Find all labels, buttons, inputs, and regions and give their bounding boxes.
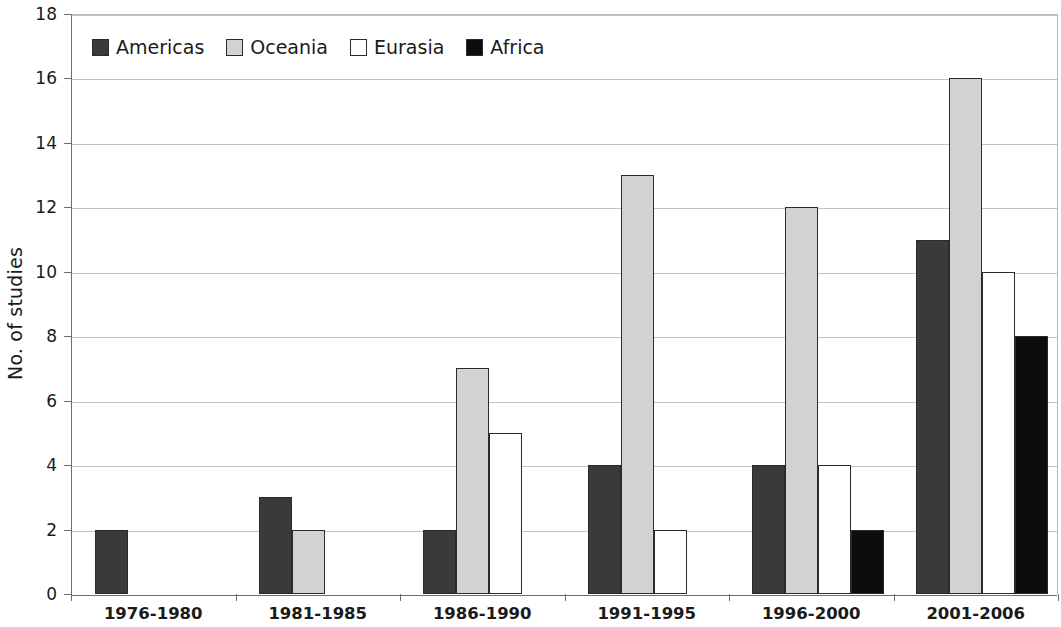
bar-americas-1996-2000 [752, 465, 785, 594]
bar-oceania-1981-1985 [292, 530, 325, 594]
legend-label: Eurasia [374, 36, 444, 58]
bar-americas-1981-1985 [259, 497, 292, 594]
bar-americas-1991-1995 [588, 465, 621, 594]
bar-group-1981-1985 [236, 15, 400, 594]
y-axis-tick-mark [64, 78, 71, 79]
bar-eurasia-1996-2000 [818, 465, 851, 594]
legend-label: Americas [116, 36, 204, 58]
x-axis-tick-label-1996-2000: 1996-2000 [729, 604, 894, 627]
y-axis-tick-mark [64, 594, 71, 595]
bar-africa-2001-2006 [1015, 336, 1048, 594]
x-axis-tick-mark [565, 594, 566, 601]
x-axis-tick-mark [894, 594, 895, 601]
x-axis-tick-label-2001-2006: 2001-2006 [894, 604, 1059, 627]
x-axis-tick-label-1976-1980: 1976-1980 [71, 604, 236, 627]
y-axis-tick-label: 8 [46, 326, 57, 346]
bar-oceania-1996-2000 [785, 207, 818, 594]
bar-group-2001-2006 [893, 15, 1057, 594]
bar-group-1991-1995 [565, 15, 729, 594]
y-axis-tick-mark [64, 14, 71, 15]
y-axis-tick-label: 18 [35, 4, 57, 24]
y-axis-tick-mark [64, 272, 71, 273]
bar-groups [72, 15, 1057, 594]
x-axis-tick-labels: 1976-19801981-19851986-19901991-19951996… [71, 604, 1058, 627]
legend-item-africa: Africa [466, 36, 544, 58]
bar-africa-1996-2000 [851, 530, 884, 594]
legend-item-americas: Americas [92, 36, 204, 58]
bar-chart-figure: No. of studies 181614121086420 1976-1980… [0, 0, 1061, 627]
x-axis-tick-label-1991-1995: 1991-1995 [565, 604, 730, 627]
y-axis-tick-mark [64, 530, 71, 531]
bar-oceania-2001-2006 [949, 78, 982, 594]
legend-item-eurasia: Eurasia [350, 36, 444, 58]
y-axis-tick-label: 12 [35, 197, 57, 217]
x-axis-tick-mark [236, 594, 237, 601]
bar-oceania-1991-1995 [621, 175, 654, 594]
bar-americas-1976-1980 [95, 530, 128, 594]
y-axis-tick-labels: 181614121086420 [0, 14, 71, 594]
bar-oceania-1986-1990 [456, 368, 489, 594]
bar-group-1976-1980 [72, 15, 236, 594]
y-axis-tick-label: 14 [35, 133, 57, 153]
bar-eurasia-2001-2006 [982, 272, 1015, 594]
legend-item-oceania: Oceania [226, 36, 328, 58]
legend-swatch-americas-icon [92, 39, 109, 56]
x-axis-tick-mark [1058, 594, 1059, 601]
bar-group-1986-1990 [400, 15, 564, 594]
plot-area [71, 14, 1058, 594]
y-axis-tick-label: 10 [35, 262, 57, 282]
legend-swatch-eurasia-icon [350, 39, 367, 56]
y-axis-tick-mark [64, 401, 71, 402]
bar-group-1996-2000 [729, 15, 893, 594]
y-axis-tick-label: 16 [35, 68, 57, 88]
y-axis-tick-mark [64, 207, 71, 208]
y-axis-tick-mark [64, 336, 71, 337]
x-axis-tick-marks [71, 594, 1058, 602]
bar-eurasia-1986-1990 [489, 433, 522, 594]
legend-swatch-africa-icon [466, 39, 483, 56]
y-axis-tick-mark [64, 465, 71, 466]
y-axis-tick-mark [64, 143, 71, 144]
chart-legend: AmericasOceaniaEurasiaAfrica [92, 36, 545, 58]
x-axis-tick-mark [729, 594, 730, 601]
bar-eurasia-1991-1995 [654, 530, 687, 594]
x-axis-tick-mark [71, 594, 72, 601]
bar-americas-2001-2006 [916, 240, 949, 594]
x-axis-tick-mark [400, 594, 401, 601]
bar-americas-1986-1990 [423, 530, 456, 594]
y-axis-tick-label: 4 [46, 455, 57, 475]
y-axis-tick-label: 6 [46, 391, 57, 411]
x-axis-tick-label-1986-1990: 1986-1990 [400, 604, 565, 627]
y-axis-tick-label: 0 [46, 584, 57, 604]
legend-swatch-oceania-icon [226, 39, 243, 56]
x-axis-tick-label-1981-1985: 1981-1985 [236, 604, 401, 627]
legend-label: Africa [490, 36, 544, 58]
legend-label: Oceania [250, 36, 328, 58]
y-axis-tick-label: 2 [46, 520, 57, 540]
